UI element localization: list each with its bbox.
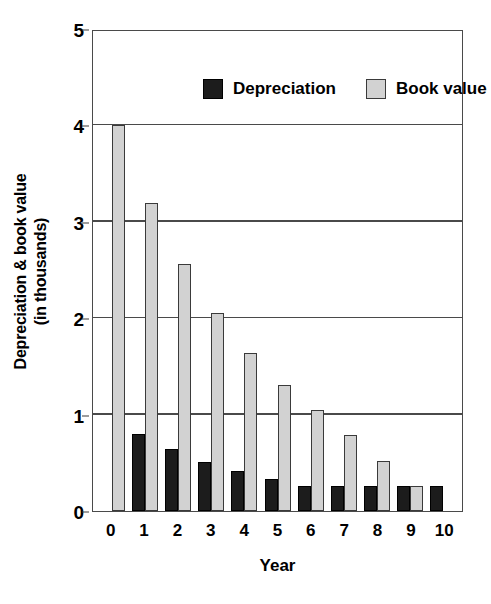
x-tick-label-9: 9 (394, 518, 427, 544)
y-tick-mark-3 (82, 222, 89, 223)
chart-figure: Depreciation & book value (in thousands)… (0, 0, 491, 604)
bar-book-value-year-8 (377, 461, 390, 511)
y-axis-title-line2: (in thousands) (31, 173, 51, 369)
bar-book-value-year-3 (211, 313, 224, 511)
bar-group (427, 31, 460, 511)
bar-depreciation-year-6 (298, 486, 311, 511)
plot-area: Depreciation Book value (92, 30, 463, 512)
bar-group (394, 31, 427, 511)
bar-book-value-year-7 (344, 435, 357, 511)
legend-label-depreciation: Depreciation (233, 79, 336, 99)
bar-group (128, 31, 161, 511)
bar-group (327, 31, 360, 511)
bar-group (161, 31, 194, 511)
bar-depreciation-year-3 (198, 462, 211, 511)
legend-label-book-value: Book value (396, 79, 487, 99)
x-tick-label-6: 6 (294, 518, 327, 544)
bar-group (361, 31, 394, 511)
bar-groups (93, 31, 462, 511)
chart-legend: Depreciation Book value (203, 79, 487, 99)
y-tick-mark-4 (82, 126, 89, 127)
bar-depreciation-year-10 (430, 486, 443, 511)
x-tick-label-5: 5 (261, 518, 294, 544)
bar-group (261, 31, 294, 511)
x-tick-label-3: 3 (194, 518, 227, 544)
bar-depreciation-year-2 (165, 449, 178, 511)
bar-depreciation-year-8 (364, 486, 377, 511)
y-tick-mark-2 (82, 319, 89, 320)
x-tick-label-0: 0 (94, 518, 127, 544)
y-tick-mark-1 (82, 415, 89, 416)
bar-group (195, 31, 228, 511)
x-tick-label-4: 4 (227, 518, 260, 544)
x-axis-title: Year (92, 556, 463, 576)
y-tick-mark-5 (82, 30, 89, 31)
bar-depreciation-year-1 (132, 434, 145, 511)
bar-depreciation-year-7 (331, 486, 344, 511)
bar-depreciation-year-5 (265, 479, 278, 511)
bar-book-value-year-2 (178, 264, 191, 511)
y-axis-ticks: 012345 (58, 30, 90, 512)
x-tick-label-2: 2 (161, 518, 194, 544)
bar-book-value-year-1 (145, 203, 158, 511)
bar-group (294, 31, 327, 511)
y-axis-title: Depreciation & book value (in thousands) (0, 30, 62, 512)
x-tick-label-10: 10 (428, 518, 461, 544)
x-tick-label-1: 1 (127, 518, 160, 544)
x-axis-ticks: 012345678910 (92, 518, 463, 544)
bar-depreciation-year-4 (231, 471, 244, 511)
legend-entry-depreciation: Depreciation (203, 79, 336, 99)
bar-book-value-year-6 (311, 410, 324, 511)
bar-book-value-year-0 (112, 125, 125, 511)
bar-book-value-year-9 (410, 486, 423, 511)
legend-swatch-book-value (366, 79, 386, 99)
y-tick-mark-0 (82, 512, 89, 513)
x-tick-label-8: 8 (361, 518, 394, 544)
legend-swatch-depreciation (203, 79, 223, 99)
bar-book-value-year-4 (244, 353, 257, 511)
bar-group (228, 31, 261, 511)
x-tick-label-7: 7 (328, 518, 361, 544)
bar-book-value-year-5 (278, 385, 291, 511)
y-axis-title-line1: Depreciation & book value (12, 173, 29, 369)
legend-entry-book-value: Book value (366, 79, 487, 99)
bar-group (95, 31, 128, 511)
bar-depreciation-year-9 (397, 486, 410, 511)
